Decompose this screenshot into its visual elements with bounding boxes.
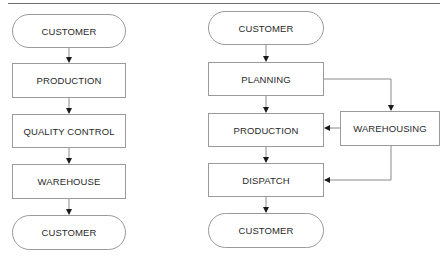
left-production-box: PRODUCTION (12, 63, 126, 98)
right-production-box: PRODUCTION (208, 113, 324, 147)
right-warehousing-box: WAREHOUSING (340, 111, 440, 146)
left-warehouse-box: WAREHOUSE (12, 164, 126, 199)
left-quality-control-box: QUALITY CONTROL (12, 114, 126, 148)
node-label: DISPATCH (242, 175, 289, 186)
left-customer-start: CUSTOMER (12, 14, 126, 48)
node-label: CUSTOMER (239, 225, 294, 236)
right-customer-start: CUSTOMER (208, 11, 324, 45)
node-label: CUSTOMER (239, 23, 294, 34)
node-label: PLANNING (241, 74, 290, 85)
node-label: WAREHOUSE (38, 176, 101, 187)
node-label: PRODUCTION (234, 125, 299, 136)
node-label: CUSTOMER (42, 227, 97, 238)
node-label: QUALITY CONTROL (23, 126, 114, 137)
node-label: PRODUCTION (37, 75, 102, 86)
left-customer-end: CUSTOMER (12, 215, 126, 250)
node-label: CUSTOMER (42, 26, 97, 37)
right-dispatch-box: DISPATCH (208, 163, 324, 197)
right-customer-end: CUSTOMER (208, 213, 324, 248)
node-label: WAREHOUSING (353, 123, 427, 134)
right-planning-box: PLANNING (208, 62, 324, 96)
